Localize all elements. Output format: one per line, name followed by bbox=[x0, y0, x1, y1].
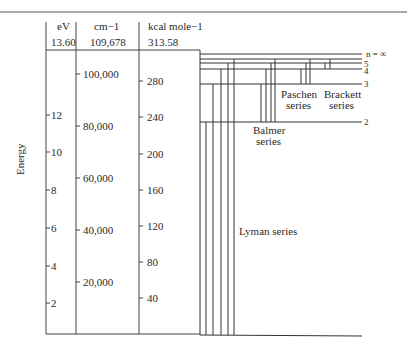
ev-ticks bbox=[46, 115, 50, 303]
kcal-tick: 240 bbox=[147, 111, 164, 123]
kcal-top-value: 313.58 bbox=[148, 36, 178, 48]
ev-unit-label: eV bbox=[57, 20, 70, 32]
cm-tick: 40,000 bbox=[83, 224, 113, 236]
kcal-tick: 200 bbox=[147, 148, 164, 160]
lyman-series-lines bbox=[200, 54, 234, 335]
energy-axis-label: Energy bbox=[14, 143, 26, 175]
level-label-ninf: n = ∞ bbox=[366, 48, 387, 60]
kcal-ticks bbox=[139, 81, 143, 298]
ev-tick: 2 bbox=[51, 297, 57, 309]
level-label-2: 2 bbox=[364, 116, 369, 128]
level-label-3: 3 bbox=[364, 78, 369, 90]
brackett-label-2: series bbox=[329, 99, 354, 111]
cm-tick: 80,000 bbox=[83, 120, 113, 132]
cm-top-value: 109,678 bbox=[90, 36, 126, 48]
ev-top-value: 13.60 bbox=[51, 36, 76, 48]
balmer-series-lines bbox=[261, 59, 275, 122]
kcal-tick: 80 bbox=[147, 256, 158, 268]
paschen-label-2: series bbox=[286, 99, 311, 111]
cm-tick: 60,000 bbox=[83, 172, 113, 184]
ev-tick: 6 bbox=[51, 222, 57, 234]
ev-tick: 4 bbox=[51, 260, 57, 272]
level-n1 bbox=[200, 335, 362, 336]
ev-tick: 8 bbox=[51, 184, 57, 196]
kcal-tick: 120 bbox=[147, 220, 164, 232]
kcal-tick: 40 bbox=[147, 292, 158, 304]
balmer-label-2: series bbox=[256, 135, 281, 147]
ev-tick: 10 bbox=[51, 146, 62, 158]
kcal-tick: 280 bbox=[147, 75, 164, 87]
cm-tick: 20,000 bbox=[83, 276, 113, 288]
cm-ticks bbox=[76, 74, 80, 282]
kcal-unit-label: kcal mole−1 bbox=[148, 20, 203, 32]
cm-unit-label: cm−1 bbox=[94, 20, 119, 32]
cm-tick: 100,000 bbox=[83, 68, 119, 80]
level-label-4: 4 bbox=[364, 65, 369, 77]
ev-tick: 12 bbox=[51, 109, 62, 121]
kcal-tick: 160 bbox=[147, 184, 164, 196]
lyman-label: Lyman series bbox=[239, 225, 297, 237]
energy-level-diagram bbox=[0, 0, 407, 347]
brackett-series-lines bbox=[325, 59, 330, 69]
